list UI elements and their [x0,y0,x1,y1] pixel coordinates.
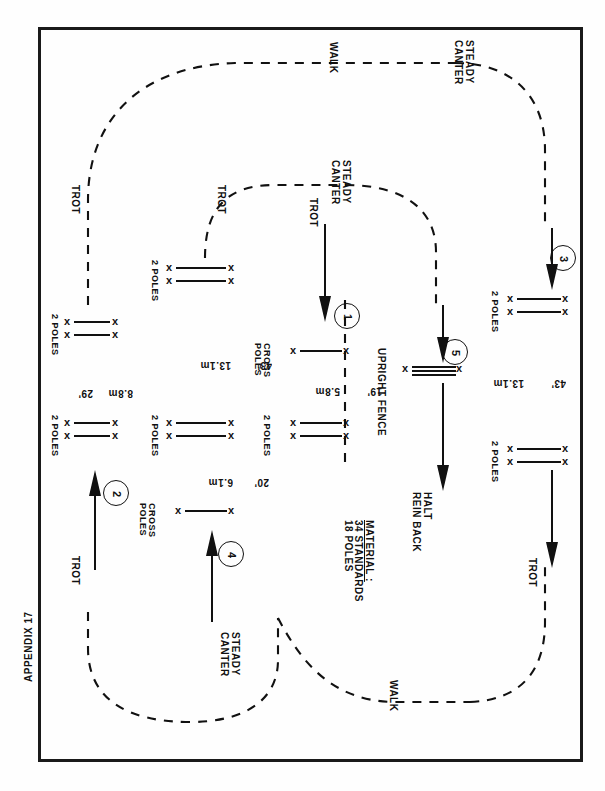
pole-bar [185,510,227,512]
obstacle-mid-upper-label: 2 POLES [150,260,159,302]
step-number-4-text: 4 [219,542,245,568]
steady-canter-line2: CANTER [453,40,464,85]
standard-marker: x [507,456,513,467]
gait-label-walk-top: WALK [328,42,339,73]
pole-bar [412,374,456,376]
pole-bar [517,298,561,300]
standard-marker: x [166,262,172,273]
material-line-2: 18 POLES [343,520,354,602]
standard-marker: x [64,316,70,327]
standard-marker: x [343,417,349,428]
appendix-label: APPENDIX 17 [24,611,35,682]
standard-marker: x [166,417,172,428]
halt-line2: REIN BACK [411,492,422,552]
pole-bar [74,321,110,323]
direction-arrow-halt [436,383,450,493]
dimension-6-1m: 6.1m [208,477,233,488]
standard-marker: x [166,430,172,441]
standard-marker: x [290,430,296,441]
obstacle-right-lower: 2 POLES x x x x [490,443,580,467]
obstacle-left-upper-label: 2 POLES [50,314,59,356]
obstacle-mid-lower: 2 POLES x x x x [150,417,240,441]
obstacle-cross-poles-upper: CROSS POLES x x [265,345,360,359]
arrow-shaft [551,470,553,542]
obstacle-right-lower-label: 2 POLES [490,441,499,483]
obstacle-cross-poles-lower: CROSS POLES x x [150,505,245,519]
arrow-head [546,542,558,568]
direction-arrow-step-2 [88,470,102,570]
gait-label-trot-center: TROT [308,198,319,227]
steady-canter2-line1: STEADY [341,160,352,205]
standard-marker: x [112,329,118,340]
standard-marker: x [228,505,234,516]
dimension-13-1m-right: 13.1m [493,378,524,389]
standard-marker: x [562,443,568,454]
standard-marker: x [64,430,70,441]
obstacle-cross-lower-label: CROSS POLES [138,503,156,538]
step-number-3: 3 [550,245,576,271]
steady-canter3-line1: STEADY [230,632,241,677]
step-number-5: 5 [442,339,468,365]
standard-marker: x [507,443,513,454]
dimension-43ft-right: 43' [551,378,566,389]
obstacle-right-upper-label: 2 POLES [490,291,499,333]
dimension-43ft: 43' [257,360,272,371]
arrow-shaft [324,224,326,296]
arrow-shaft [442,383,444,465]
pole-bar [517,311,561,313]
standard-marker: x [402,363,408,374]
dimension-13-1m: 13.1m [200,360,231,371]
step-number-1: 1 [334,303,360,329]
arrow-shaft [94,496,96,570]
obstacle-mid-lower-label: 2 POLES [150,415,159,457]
pole-bar [74,435,110,437]
obstacle-mid-upper: 2 POLES x x x x [150,262,240,286]
gait-label-trot-right-lower: TROT [527,558,538,587]
gait-label-steady-canter-center: STEADY CANTER [330,160,351,205]
standard-marker: x [64,417,70,428]
gait-label-steady-canter-top-right: STEADY CANTER [453,40,474,85]
obstacle-centre-two-poles: 2 POLES x x x x [265,417,360,441]
obstacle-left-lower: 2 POLES x x x x [50,417,125,441]
standard-marker: x [507,293,513,304]
standard-marker: x [166,275,172,286]
material-heading: MATERIAL : [364,520,375,602]
obstacle-right-upper: 2 POLES x x x x [490,293,580,317]
arrow-head [319,296,331,322]
direction-arrow-step-4 [205,530,219,622]
direction-arrow-trot-right [545,470,559,570]
standard-marker: x [112,430,118,441]
obstacle-centre-label: 2 POLES [262,415,271,457]
step-number-4: 4 [218,541,244,567]
gait-label-trot-left-lower: TROT [70,556,81,585]
material-line-1: 34 STANDARDS [353,520,364,602]
dimension-5-8m: 5.8m [315,386,340,397]
step-number-2-text: 2 [104,481,130,507]
pole-bar [176,267,226,269]
standard-marker: x [228,430,234,441]
step-number-2: 2 [103,480,129,506]
pole-bar [517,448,561,450]
arrow-head [206,530,218,556]
pole-bar [176,280,226,282]
steady-canter-line1: STEADY [464,40,475,85]
standard-marker: x [507,306,513,317]
standard-marker: x [562,306,568,317]
standard-marker: x [112,417,118,428]
steady-canter2-line2: CANTER [330,160,341,205]
material-block: MATERIAL : 34 STANDARDS 18 POLES [343,520,375,602]
standard-marker: x [290,417,296,428]
pole-bar [517,461,561,463]
halt-rein-back-label: HALT REIN BACK [411,492,432,552]
pole-bar [300,422,342,424]
standard-marker: x [343,345,349,356]
cross-lower-l2: POLES [138,503,147,538]
standard-marker: x [562,293,568,304]
pole-bar [300,435,342,437]
standard-marker: x [112,316,118,327]
obstacle-left-lower-label: 2 POLES [50,415,59,457]
step-number-3-text: 3 [551,246,577,272]
standard-marker: x [228,262,234,273]
arrow-shaft [211,556,213,622]
standard-marker: x [343,430,349,441]
